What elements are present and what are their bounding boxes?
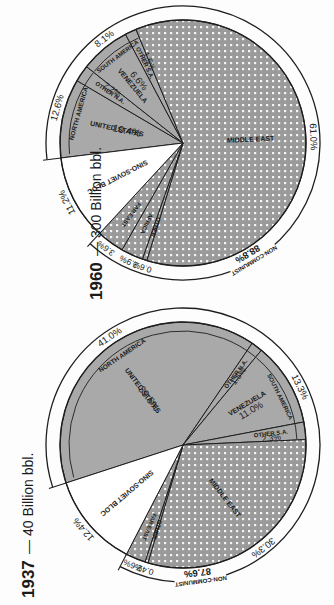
title-1937-subtitle: 40 Billion bbl. (20, 453, 36, 536)
title-1960-subtitle: 300 Billion bbl. (88, 147, 104, 238)
oil-reserves-figure: UNITED STATES10.4%OTHER N.A.2.2%VENEZUEL… (0, 0, 334, 605)
title-1960: 1960 — 300 Billion bbl. (87, 147, 106, 300)
title-1937-dash: — (20, 540, 36, 554)
title-1937: 1937 — 40 Billion bbl. (19, 453, 38, 598)
title-1960-dash: — (88, 242, 104, 256)
title-1937-year: 1937 (19, 560, 38, 598)
title-1960-year: 1960 (87, 262, 106, 300)
label-middle-east-pct: 61.0% (308, 123, 320, 151)
